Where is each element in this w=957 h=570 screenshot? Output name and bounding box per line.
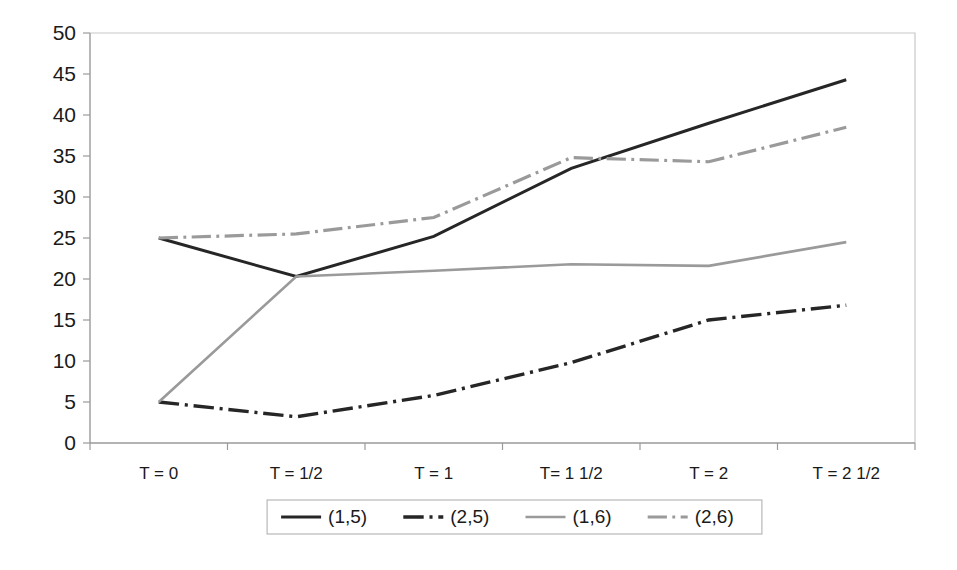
y-tick-label: 45 [53,62,76,85]
y-tick-label: 25 [53,226,76,249]
y-tick-label: 35 [53,144,76,167]
x-category-label: T = 2 [689,464,728,483]
y-tick-label: 15 [53,308,76,331]
legend-label-25[interactable]: (2,5) [450,506,489,527]
chart-canvas: 05101520253035404550 T = 0T = 1/2T = 1T=… [0,0,957,570]
x-category-label: T = 0 [139,464,178,483]
line-chart-figure: 05101520253035404550 T = 0T = 1/2T = 1T=… [0,0,957,570]
y-tick-label: 50 [53,21,76,44]
x-category-label: T = 2 1/2 [813,464,880,483]
y-tick-label: 30 [53,185,76,208]
legend-label-15[interactable]: (1,5) [328,506,367,527]
x-axis-ticks [90,443,915,450]
x-category-label: T = 1/2 [270,464,323,483]
y-tick-label: 40 [53,103,76,126]
plot-area [90,33,915,443]
y-tick-label: 10 [53,349,76,372]
x-category-label: T = 1 [414,464,453,483]
y-axis-ticks [83,33,90,443]
y-tick-label: 5 [64,390,76,413]
chart-legend[interactable]: (1,5)(2,5)(1,6)(2,6) [267,500,762,534]
x-axis-labels: T = 0T = 1/2T = 1T= 1 1/2T = 2T = 2 1/2 [139,464,880,483]
legend-label-16[interactable]: (1,6) [573,506,612,527]
y-axis-labels: 05101520253035404550 [53,21,76,454]
y-tick-label: 20 [53,267,76,290]
legend-label-26[interactable]: (2,6) [695,506,734,527]
plot-background [90,33,915,443]
x-category-label: T= 1 1/2 [540,464,603,483]
y-tick-label: 0 [64,431,76,454]
